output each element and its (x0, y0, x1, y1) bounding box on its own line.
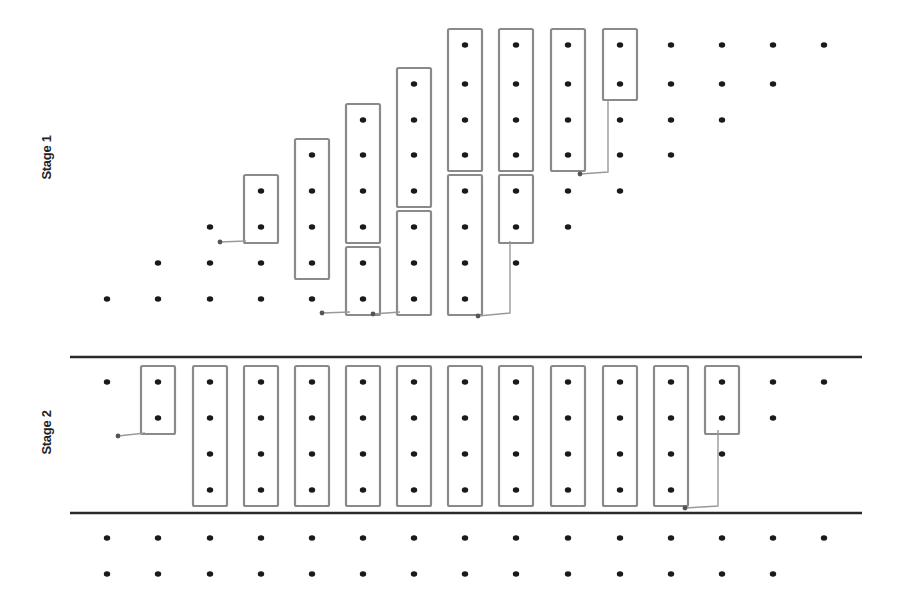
group-box (193, 366, 227, 506)
dot (155, 379, 161, 385)
dot (104, 535, 110, 541)
dot (565, 117, 571, 123)
dot (207, 296, 213, 302)
dot (513, 224, 519, 230)
connector-line (322, 312, 350, 313)
dot (719, 81, 725, 87)
dot (207, 415, 213, 421)
dot (719, 117, 725, 123)
dot (565, 415, 571, 421)
dot (360, 379, 366, 385)
dot (617, 415, 623, 421)
dot (309, 451, 315, 457)
dot (258, 571, 264, 577)
dot (309, 260, 315, 266)
dot (719, 379, 725, 385)
pipeline-stages-diagram (0, 0, 897, 596)
dot (617, 81, 623, 87)
dot (462, 296, 468, 302)
dot (462, 571, 468, 577)
dot (104, 571, 110, 577)
dot (821, 535, 827, 541)
dot (207, 535, 213, 541)
dot (309, 379, 315, 385)
dot (565, 571, 571, 577)
dot (462, 152, 468, 158)
dot (207, 379, 213, 385)
dot (513, 152, 519, 158)
dot (258, 224, 264, 230)
dot (565, 42, 571, 48)
dot (155, 535, 161, 541)
dot (565, 451, 571, 457)
dot (565, 224, 571, 230)
dot (668, 117, 674, 123)
dot (668, 152, 674, 158)
dot (513, 188, 519, 194)
group-box (244, 366, 278, 506)
group-box (295, 139, 329, 279)
dot (668, 535, 674, 541)
dot (668, 451, 674, 457)
dot (411, 415, 417, 421)
dot (411, 152, 417, 158)
dot (411, 81, 417, 87)
dot (565, 535, 571, 541)
dot (617, 188, 623, 194)
group-box (499, 175, 533, 243)
dot (258, 487, 264, 493)
connector-endpoint (218, 240, 223, 245)
dot (617, 487, 623, 493)
dot (513, 117, 519, 123)
dot (411, 117, 417, 123)
dot (719, 42, 725, 48)
dot (309, 224, 315, 230)
dot (360, 117, 366, 123)
dot (770, 571, 776, 577)
dot (309, 487, 315, 493)
dot (617, 571, 623, 577)
group-box (448, 366, 482, 506)
dot (617, 379, 623, 385)
dot (360, 535, 366, 541)
dot (258, 379, 264, 385)
dot (668, 571, 674, 577)
dot (770, 379, 776, 385)
dot (719, 571, 725, 577)
group-box (448, 29, 482, 171)
dot (155, 415, 161, 421)
dot (411, 224, 417, 230)
dot (258, 260, 264, 266)
dot (668, 42, 674, 48)
group-box (346, 366, 380, 506)
dot (360, 260, 366, 266)
group-box (448, 175, 482, 315)
dot (513, 42, 519, 48)
dot (360, 571, 366, 577)
dot (719, 415, 725, 421)
dot (309, 152, 315, 158)
dot (309, 415, 315, 421)
dot (360, 152, 366, 158)
dot (309, 188, 315, 194)
dot (821, 379, 827, 385)
dot (565, 487, 571, 493)
dot (360, 487, 366, 493)
dot (411, 571, 417, 577)
dot (155, 571, 161, 577)
dot (104, 379, 110, 385)
group-box (705, 366, 739, 434)
group-box (551, 29, 585, 171)
dot (258, 535, 264, 541)
dot (258, 451, 264, 457)
group-box (295, 366, 329, 506)
group-box (397, 68, 431, 207)
dot (462, 415, 468, 421)
connector-endpoint (320, 311, 325, 316)
grouping-boxes (141, 29, 739, 506)
dot (258, 296, 264, 302)
dot (462, 42, 468, 48)
dot (770, 535, 776, 541)
dot (360, 224, 366, 230)
group-box (244, 175, 278, 243)
